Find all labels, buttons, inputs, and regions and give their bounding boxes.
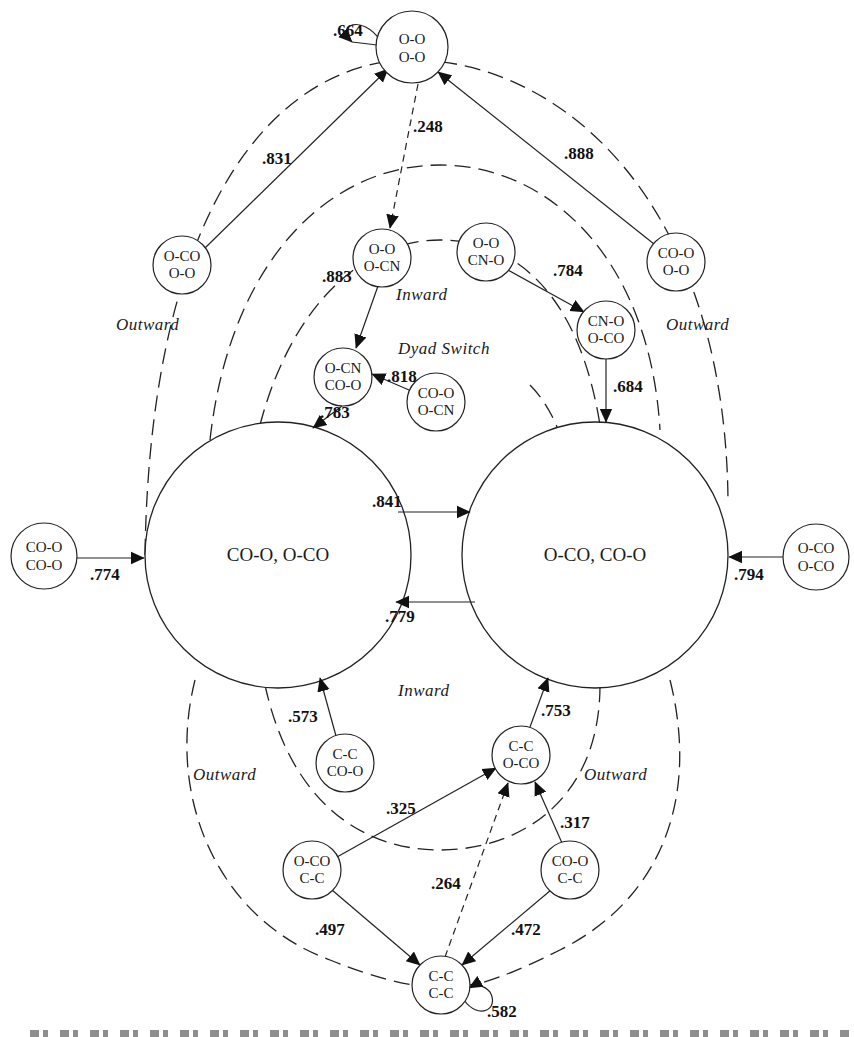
svg-text:CO-O: CO-O <box>26 557 63 573</box>
svg-text:CO-O: CO-O <box>325 377 362 393</box>
state-coo-cc[interactable]: CO-O C-C <box>541 841 599 899</box>
svg-text:CN-O: CN-O <box>468 252 505 268</box>
state-oco-cc[interactable]: O-CO C-C <box>283 841 341 899</box>
state-label: CO-O, O-CO <box>227 544 329 565</box>
state-coo-oo[interactable]: CO-O O-O <box>647 233 705 291</box>
prob-coo-ocn-to-ocn-coo: .818 <box>387 367 417 386</box>
edge-oco-oo-to-oo <box>205 69 388 248</box>
svg-text:C-C: C-C <box>508 738 533 754</box>
svg-text:CO-O: CO-O <box>26 539 63 555</box>
svg-text:O-CO: O-CO <box>798 540 835 556</box>
prob-right-to-left: .779 <box>385 607 415 626</box>
svg-text:C-C: C-C <box>299 870 324 886</box>
edge-cc-cc-to-cc-oco <box>445 783 508 957</box>
region-inward-bottom: Inward <box>397 681 450 700</box>
svg-text:O-O: O-O <box>399 31 426 47</box>
svg-text:O-O: O-O <box>473 235 500 251</box>
svg-text:O-O: O-O <box>369 241 396 257</box>
svg-text:O-O: O-O <box>663 262 690 278</box>
state-cc-oco[interactable]: C-C O-CO <box>492 726 550 784</box>
region-outward-bottom-right: Outward <box>584 765 647 784</box>
prob-oo-cno-to-cno-oco: .784 <box>553 261 583 280</box>
state-cc-coo[interactable]: C-C CO-O <box>316 734 374 792</box>
region-outward-top-left: Outward <box>116 315 179 334</box>
state-oco-oco[interactable]: O-CO O-CO <box>783 524 849 590</box>
state-coo-coo[interactable]: CO-O CO-O <box>11 523 77 589</box>
svg-text:CO-O: CO-O <box>552 853 589 869</box>
prob-oco-cc-to-cc-oco: .325 <box>386 799 416 818</box>
prob-coo-coo-to-left: .774 <box>90 565 120 584</box>
edge-cc-coo-to-left <box>320 678 336 736</box>
prob-coo-cc-to-cc-oco: .317 <box>560 813 590 832</box>
state-oo-ocn[interactable]: O-O O-CN <box>353 229 411 287</box>
svg-text:O-O: O-O <box>399 49 426 65</box>
region-outward-bottom-left: Outward <box>193 765 256 784</box>
svg-text:O-O: O-O <box>169 265 196 281</box>
prob-oo-ocn-to-ocn-coo: .883 <box>322 267 352 286</box>
prob-cc-coo-to-left: .573 <box>288 707 318 726</box>
region-outward-top-right: Outward <box>666 315 729 334</box>
svg-text:O-CO: O-CO <box>588 330 625 346</box>
prob-cno-oco-to-right: .684 <box>613 377 643 396</box>
state-big-left[interactable]: CO-O, O-CO <box>145 422 411 688</box>
svg-text:C-C: C-C <box>428 968 453 984</box>
prob-oco-oco-to-right: .794 <box>734 565 764 584</box>
edge-oco-cc-to-cc-cc <box>332 890 420 965</box>
state-oo-oo[interactable]: O-O O-O <box>376 11 448 83</box>
outer-bottom-right-arc <box>468 680 680 985</box>
prob-oco-cc-to-cc-cc: .497 <box>315 920 345 939</box>
prob-cc-cc-to-cc-oco: .264 <box>431 874 461 893</box>
prob-coo-cc-to-cc-cc: .472 <box>511 920 541 939</box>
prob-cc-self: .582 <box>487 1002 517 1021</box>
prob-oo-self: .664 <box>333 21 363 40</box>
svg-text:CN-O: CN-O <box>588 313 625 329</box>
svg-text:O-CO: O-CO <box>164 248 201 264</box>
state-label: O-CO, CO-O <box>544 544 646 565</box>
svg-text:C-C: C-C <box>332 746 357 762</box>
svg-text:O-CO: O-CO <box>798 558 835 574</box>
edge-oo-to-oo-ocn <box>390 84 418 228</box>
region-inward-top: Inward <box>395 285 448 304</box>
edge-coo-oo-to-oo <box>438 72 654 244</box>
edge-coo-cc-to-cc-oco <box>535 782 562 843</box>
svg-text:CO-O: CO-O <box>327 763 364 779</box>
state-big-right[interactable]: O-CO, CO-O <box>462 422 728 688</box>
prob-left-to-right: .841 <box>372 492 402 511</box>
svg-text:CO-O: CO-O <box>658 245 695 261</box>
state-ocn-coo[interactable]: O-CN CO-O <box>314 348 372 406</box>
prob-ocn-coo-to-left: .783 <box>320 403 350 422</box>
svg-text:C-C: C-C <box>428 985 453 1001</box>
svg-text:O-CO: O-CO <box>294 853 331 869</box>
transition-diagram: CO-O, O-CO O-CO, CO-O <box>0 0 854 1037</box>
svg-text:O-CN: O-CN <box>364 258 401 274</box>
state-cno-oco[interactable]: CN-O O-CO <box>577 301 635 359</box>
state-oo-cno[interactable]: O-O CN-O <box>457 223 515 281</box>
svg-text:O-CN: O-CN <box>418 402 455 418</box>
state-cc-cc[interactable]: C-C C-C <box>412 956 470 1014</box>
svg-text:O-CO: O-CO <box>503 755 540 771</box>
edge-oo-ocn-to-ocn-coo <box>356 286 378 348</box>
caption-cutoff <box>30 1030 850 1037</box>
state-oco-oo[interactable]: O-CO O-O <box>153 236 211 294</box>
svg-text:O-CN: O-CN <box>325 360 362 376</box>
svg-text:C-C: C-C <box>557 870 582 886</box>
prob-coo-oo-to-oo: .888 <box>564 144 594 163</box>
prob-cc-oco-to-right: .753 <box>541 701 571 720</box>
prob-oo-to-oo-ocn: .248 <box>413 117 443 136</box>
prob-oco-oo-to-oo: .831 <box>262 149 292 168</box>
svg-text:CO-O: CO-O <box>418 385 455 401</box>
region-dyad-switch: Dyad Switch <box>397 339 490 358</box>
